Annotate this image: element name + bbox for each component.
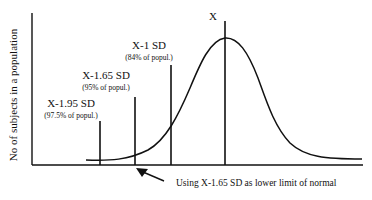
marker-label-165sd: X-1.65 SD (82, 69, 130, 81)
marker-label-1sd: X-1 SD (132, 39, 166, 51)
annotation-caption: Using X-1.65 SD as lower limit of normal (176, 178, 337, 188)
annotation-arrow-shaft (143, 172, 164, 181)
y-axis-label: No of subjects in a population (7, 28, 19, 161)
normal-distribution-diagram: No of subjects in a population X X-1 SD … (0, 0, 372, 200)
marker-sublabel-165sd: (95% of popul.) (82, 83, 130, 92)
mean-label: X (209, 10, 217, 22)
marker-sublabel-195sd: (97.5% of popul.) (44, 111, 98, 120)
marker-label-195sd: X-1.95 SD (47, 97, 95, 109)
marker-sublabel-1sd: (84% of popul.) (125, 53, 173, 62)
arrow-head-icon (136, 168, 148, 177)
